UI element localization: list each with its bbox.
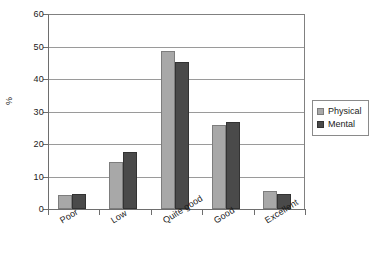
legend-label-mental: Mental bbox=[328, 120, 355, 129]
bar-chart: % 0102030405060 PoorLowQuite goodGoodExc… bbox=[0, 0, 384, 268]
x-tick-mark bbox=[202, 210, 203, 215]
bar bbox=[175, 62, 189, 209]
y-tick-label: 10 bbox=[34, 173, 44, 182]
x-tick-mark bbox=[305, 210, 306, 215]
y-tick-label: 20 bbox=[34, 140, 44, 149]
x-axis-label: Low bbox=[109, 208, 129, 225]
y-tick-label: 60 bbox=[34, 10, 44, 19]
y-tick-label: 0 bbox=[39, 205, 44, 214]
legend-swatch-icon-mental bbox=[317, 121, 324, 128]
y-tick-label: 40 bbox=[34, 75, 44, 84]
bars-layer bbox=[48, 14, 305, 209]
bar bbox=[212, 125, 226, 209]
legend: Physical Mental bbox=[312, 100, 369, 136]
bar bbox=[109, 162, 123, 209]
x-tick-mark bbox=[48, 210, 49, 215]
x-tick-mark bbox=[254, 210, 255, 215]
y-tick-label: 50 bbox=[34, 43, 44, 52]
x-tick-mark bbox=[99, 210, 100, 215]
legend-swatch-icon-physical bbox=[317, 108, 324, 115]
bar bbox=[161, 51, 175, 209]
bar bbox=[263, 191, 277, 209]
y-axis-title: % bbox=[4, 97, 14, 105]
bar bbox=[58, 195, 72, 209]
bar bbox=[123, 152, 137, 209]
legend-item-mental: Mental bbox=[317, 118, 362, 131]
bar bbox=[226, 122, 240, 209]
y-tick-label: 30 bbox=[34, 108, 44, 117]
legend-label-physical: Physical bbox=[328, 107, 362, 116]
legend-item-physical: Physical bbox=[317, 105, 362, 118]
x-tick-mark bbox=[151, 210, 152, 215]
